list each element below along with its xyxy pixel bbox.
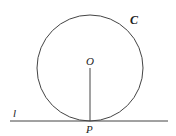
label-o: O: [86, 55, 94, 67]
label-p: P: [85, 123, 93, 135]
label-l: l: [13, 107, 16, 119]
label-c: C: [130, 13, 139, 27]
tangent-diagram: C O l P: [0, 0, 176, 136]
